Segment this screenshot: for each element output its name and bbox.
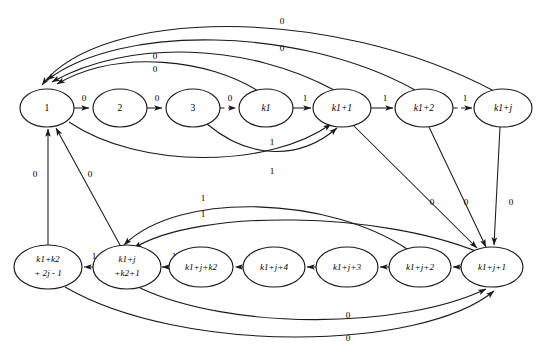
- edge-bk1k22j1-bk1jp1-arc: [65, 287, 494, 337]
- state-node-1[interactable]: 1: [20, 89, 74, 127]
- edge-label-bk1k22j1-bk1jp1-arc: 0: [346, 333, 351, 343]
- state-node-k1jp4[interactable]: k1+j+4: [243, 247, 305, 287]
- edge-sk1p2-s1-back: [47, 40, 415, 90]
- edge-label-bk1jk2p1-s1: 0: [88, 169, 93, 179]
- edge-sk1p1-bk1jp1: [354, 126, 477, 248]
- edge-label-sk1p2-bk1jp1: 0: [464, 197, 469, 207]
- edge-label-sk1-sk1p1: 1: [303, 93, 308, 103]
- state-node-k1p2-label: k1+2: [414, 102, 435, 113]
- state-node-k1p1[interactable]: k1+1: [313, 89, 371, 127]
- edge-label-s1-sk1p1-fwd: 1: [270, 137, 275, 147]
- state-node-k1jk2-label: k1+j+k2: [185, 262, 217, 272]
- state-diagram-svg: 0 0 0 1 1 1 0 0 0 0 1 1 0 0 0 1 1 0 0 1 …: [0, 0, 544, 363]
- edge-label-bk1k22j1-s1: 0: [33, 169, 38, 179]
- state-node-k1k2p2jm1-label-line1: k1+k2: [36, 254, 60, 264]
- edge-bk1jk2p1-bk1jp1-arc: [140, 288, 486, 320]
- edge-label-sk1-s1-back: 0: [153, 51, 158, 61]
- edge-label-sk1pj-bk1jp1: 0: [509, 197, 514, 207]
- state-node-k1p1-label: k1+1: [332, 102, 352, 113]
- edge-label-s2-s3: 0: [155, 93, 160, 103]
- edge-label-s3-sk1: 0: [228, 93, 233, 103]
- edge-sk1p1-s1-back: [52, 52, 334, 90]
- state-node-k1jp1-label: k1+j+1: [478, 262, 506, 272]
- state-node-k1[interactable]: k1: [239, 89, 293, 127]
- edge-label-bk1jk2p1-bk1jp1-arc: 0: [346, 310, 351, 320]
- state-node-k1jp3[interactable]: k1+j+3: [316, 247, 378, 287]
- state-node-k1pj[interactable]: k1+j: [474, 89, 532, 127]
- state-node-k1jk2p1-shape[interactable]: [93, 245, 161, 289]
- edge-label-sk1p1-bk1jp1: 0: [430, 197, 435, 207]
- state-node-k1jp2-label: k1+j+2: [406, 262, 434, 272]
- edge-bk1jp2-bk1jk2p1-arc: [124, 207, 407, 249]
- state-node-k1jp4-label: k1+j+4: [260, 262, 288, 272]
- edge-bk1jk2p1-s1: [56, 128, 120, 245]
- edge-label-s3-sk1p1-fwd: 1: [270, 166, 275, 176]
- state-node-k1pj-label: k1+j: [494, 102, 513, 113]
- edge-label-sk1pj-s1-back: 0: [280, 16, 285, 26]
- state-node-k1jp3-label: k1+j+3: [333, 262, 361, 272]
- state-diagram-canvas: 0 0 0 1 1 1 0 0 0 0 1 1 0 0 0 1 1 0 0 1 …: [0, 0, 544, 363]
- edge-label-bk1jp2-bk1jk2p1: 1: [201, 193, 206, 203]
- state-node-k1k2p2jm1-label-line2: + 2j - 1: [34, 268, 62, 278]
- state-node-k1k2p2jm1[interactable]: k1+k2 + 2j - 1: [14, 245, 82, 289]
- state-node-k1jk2p1-label-line2: +k2+1: [114, 268, 139, 278]
- edge-label-s1-s2: 0: [82, 93, 87, 103]
- state-node-3[interactable]: 3: [166, 89, 220, 127]
- state-node-k1jk2[interactable]: k1+j+k2: [169, 247, 233, 287]
- edge-label-sk1p2-sk1pj: 1: [463, 93, 468, 103]
- state-node-1-label: 1: [45, 102, 50, 113]
- edge-sk1pj-bk1jp1: [494, 127, 500, 245]
- edge-label-bk1jp1-bk1jk2p1: 1: [201, 209, 206, 219]
- state-node-2-label: 2: [118, 102, 123, 113]
- edges-layer: [42, 26, 500, 337]
- state-node-k1jp1[interactable]: k1+j+1: [461, 247, 523, 287]
- state-node-2[interactable]: 2: [93, 89, 147, 127]
- edge-s1-sk1p1-fwd: [69, 122, 331, 158]
- edge-label-sk1p1-s1-back: 0: [153, 64, 158, 74]
- edge-label-sk1p2-s1-back: 0: [280, 43, 285, 53]
- state-node-3-label: 3: [191, 102, 196, 113]
- state-node-k1jk2p1[interactable]: k1+j +k2+1: [93, 245, 161, 289]
- state-node-k1jp2[interactable]: k1+j+2: [389, 247, 451, 287]
- state-node-k1jk2p1-label-line1: k1+j: [118, 254, 136, 264]
- state-node-k1-label: k1: [261, 102, 270, 113]
- edge-label-sk1p1-sk1p2: 1: [383, 93, 388, 103]
- state-node-k1k2p2jm1-shape[interactable]: [14, 245, 82, 289]
- state-node-k1p2[interactable]: k1+2: [395, 89, 453, 127]
- edge-sk1pj-s1-back: [42, 26, 494, 91]
